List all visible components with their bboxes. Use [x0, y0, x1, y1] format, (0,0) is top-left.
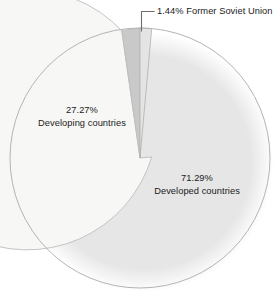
slice-label-developed-percent: 71.29%	[116, 172, 278, 185]
pie-chart-graphic	[0, 0, 278, 305]
slice-label-developing-name: Developing countries	[0, 117, 164, 130]
slice-label-former-soviet-union-text: 1.44% Former Soviet Union	[157, 6, 272, 16]
slice-label-developing-percent: 27.27%	[0, 104, 164, 117]
slice-label-developed: 71.29% Developed countries	[116, 172, 278, 197]
slice-label-developed-name: Developed countries	[116, 185, 278, 198]
slice-label-developing: 27.27% Developing countries	[0, 104, 164, 129]
slice-label-former-soviet-union: 1.44% Former Soviet Union	[157, 5, 278, 17]
pie-chart-figure: 1.44% Former Soviet Union 27.27% Develop…	[0, 0, 278, 305]
